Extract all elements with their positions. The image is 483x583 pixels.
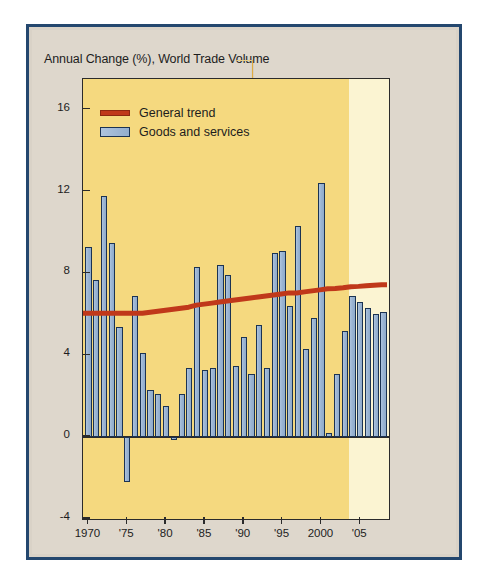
y-tick-12	[83, 190, 90, 192]
legend-bar-swatch-icon	[100, 127, 130, 137]
general-trend-line	[83, 79, 389, 519]
x-tick-label: '05	[337, 527, 381, 539]
y-tick-8	[83, 272, 90, 274]
y-tick-0	[83, 435, 90, 437]
slab-top-face	[236, 60, 253, 61]
legend-item-label: Goods and services	[139, 125, 249, 139]
x-tick-95	[281, 517, 283, 524]
legend-line-swatch-icon	[100, 110, 130, 116]
legend-item-general-trend: General trend	[100, 104, 249, 121]
x-tick-85	[203, 517, 205, 524]
x-tick-label: 1970	[65, 527, 109, 539]
y-tick-label: 16	[40, 101, 70, 113]
y-tick-label: -4	[40, 510, 70, 522]
x-tick-2000	[320, 517, 322, 524]
y-tick-16	[83, 108, 90, 110]
x-tick-75	[126, 517, 128, 524]
y-tick-4	[83, 354, 90, 356]
x-tick-1970	[87, 517, 89, 524]
chart-legend: General trend Goods and services	[100, 104, 249, 142]
legend-item-label: General trend	[139, 106, 215, 120]
x-tick-80	[164, 517, 166, 524]
x-tick-90	[242, 517, 244, 524]
chart-figure: Annual Change (%), World Trade Volume -4…	[0, 0, 483, 583]
legend-item-goods-and-services: Goods and services	[100, 123, 249, 140]
x-tick-label: '80	[143, 527, 187, 539]
x-tick-label: 2000	[298, 527, 342, 539]
y-tick-label: 12	[40, 183, 70, 195]
x-tick-label: '85	[182, 527, 226, 539]
y-tick-label: 4	[40, 346, 70, 358]
x-tick-label: '95	[260, 527, 304, 539]
x-tick-05	[359, 517, 361, 524]
x-tick-label: '90	[221, 527, 265, 539]
plot-area	[82, 78, 390, 520]
x-tick-label: '75	[104, 527, 148, 539]
y-tick-label: 8	[40, 264, 70, 276]
y-tick-label: 0	[40, 428, 70, 440]
